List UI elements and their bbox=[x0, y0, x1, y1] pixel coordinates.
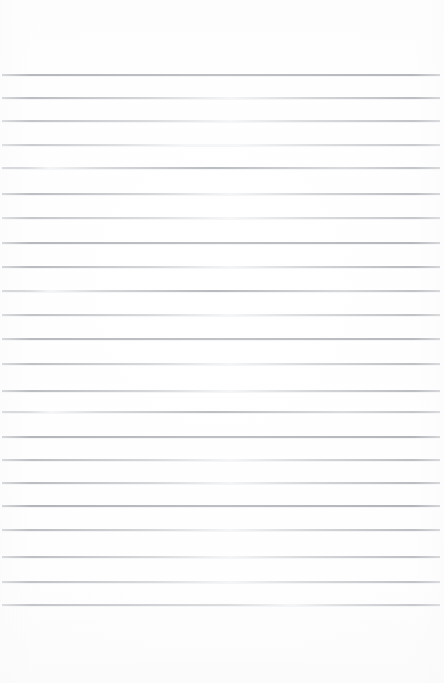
rule-line bbox=[2, 120, 440, 122]
rule-line bbox=[2, 242, 440, 244]
rule-line bbox=[2, 167, 440, 169]
rule-line bbox=[2, 505, 440, 507]
rule-line bbox=[2, 338, 440, 340]
rule-line bbox=[2, 411, 440, 413]
rule-line bbox=[2, 97, 440, 99]
rule-line bbox=[2, 581, 440, 583]
rule-line bbox=[2, 363, 440, 365]
rule-line bbox=[2, 390, 440, 392]
rule-line bbox=[2, 556, 440, 558]
rule-line bbox=[2, 266, 440, 268]
rule-line bbox=[2, 314, 440, 316]
rule-line bbox=[2, 482, 440, 484]
rule-line bbox=[2, 74, 440, 76]
rule-line bbox=[2, 459, 440, 461]
ruling-lines-layer bbox=[0, 0, 444, 683]
rule-line bbox=[2, 290, 440, 292]
rule-line bbox=[2, 217, 440, 219]
rule-line bbox=[2, 436, 440, 438]
rule-line bbox=[2, 529, 440, 531]
rule-line bbox=[2, 604, 440, 606]
rule-line bbox=[2, 193, 440, 195]
rule-line bbox=[2, 144, 440, 146]
notepad-page bbox=[0, 0, 444, 683]
